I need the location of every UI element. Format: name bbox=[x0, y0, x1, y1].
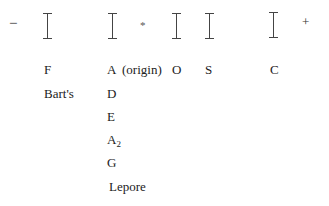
label-hb-d: D bbox=[107, 86, 116, 101]
bar-cap-bottom bbox=[172, 38, 181, 39]
label-hb-c: C bbox=[270, 62, 279, 77]
label-hb-s: S bbox=[205, 62, 212, 77]
bar-stem bbox=[273, 12, 274, 38]
negative-pole-label: − bbox=[9, 16, 17, 31]
bar-cap-bottom bbox=[43, 38, 52, 39]
label-hb-f: F bbox=[44, 62, 51, 77]
band-bar-f bbox=[43, 13, 52, 39]
bar-stem bbox=[47, 13, 48, 39]
bar-cap-bottom bbox=[108, 38, 117, 39]
band-bar-o bbox=[172, 13, 181, 39]
band-bar-c bbox=[269, 12, 278, 38]
label-hb-a2-base: A bbox=[107, 132, 116, 147]
bar-cap-bottom bbox=[205, 38, 214, 39]
bar-stem bbox=[176, 13, 177, 39]
label-hb-g: G bbox=[107, 155, 116, 170]
origin-marker-icon: * bbox=[140, 20, 146, 31]
label-hb-lepore: Lepore bbox=[109, 179, 146, 194]
bar-stem bbox=[209, 13, 210, 39]
positive-pole-label: + bbox=[302, 14, 309, 29]
band-bar-a bbox=[108, 13, 117, 39]
label-hb-e: E bbox=[107, 109, 115, 124]
band-bar-s bbox=[205, 13, 214, 39]
label-hb-a2: A2 bbox=[107, 132, 121, 147]
label-hb-barts: Bart's bbox=[44, 86, 74, 101]
bar-cap-bottom bbox=[269, 37, 278, 38]
label-hb-a: A bbox=[107, 62, 116, 77]
label-hb-o: O bbox=[172, 62, 181, 77]
bar-stem bbox=[112, 13, 113, 39]
label-hb-a2-subscript: 2 bbox=[116, 139, 121, 149]
label-origin: (origin) bbox=[122, 62, 162, 77]
